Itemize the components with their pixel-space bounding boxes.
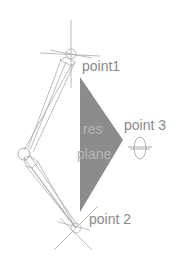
plane-label-res: res: [83, 122, 102, 136]
point1-locator-icon[interactable]: [40, 20, 100, 88]
lower-bone: [24, 156, 78, 228]
plane-label-plane: plane: [77, 147, 111, 161]
upper-bone: [24, 57, 75, 152]
point3-label: point 3: [124, 118, 166, 132]
point2-label: point 2: [89, 212, 131, 226]
point1-label: point1: [82, 59, 120, 73]
result-plane: [80, 77, 123, 212]
point3-locator-icon[interactable]: [128, 137, 152, 159]
diagram-canvas: point1 point 3 res plane point 2: [0, 0, 192, 266]
